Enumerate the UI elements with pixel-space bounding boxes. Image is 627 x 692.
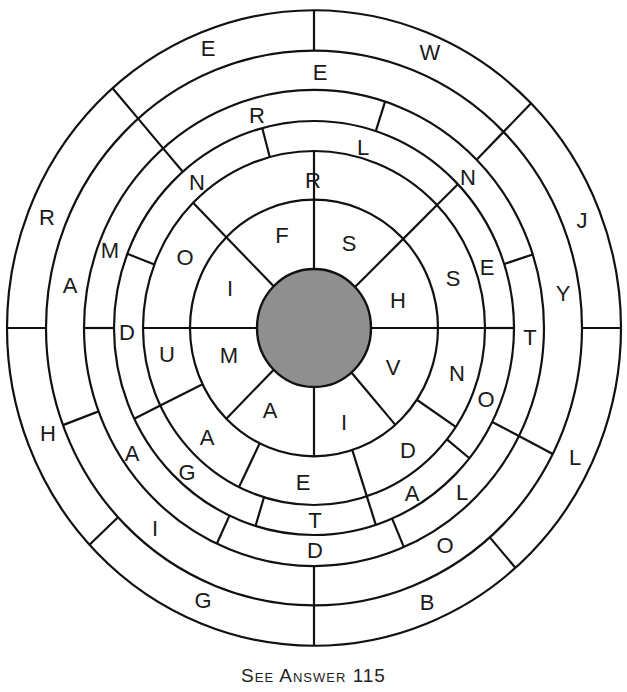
ring-6-letter: G — [194, 588, 211, 613]
ring-6-letter: W — [420, 40, 441, 65]
center-hub-circle — [257, 269, 371, 387]
ring-1-letter: A — [263, 398, 278, 423]
ring-3-letter: L — [357, 135, 369, 160]
ring-4-letter: A — [125, 441, 140, 466]
ring-4-letter: T — [523, 325, 536, 350]
separator-ring-4 — [376, 102, 385, 132]
ring-5-letter: I — [152, 516, 158, 541]
separator-ring-3 — [447, 439, 470, 458]
separator-ring-2 — [417, 400, 456, 427]
separator-ring-5 — [138, 119, 163, 149]
ring-3-letter: D — [119, 320, 135, 345]
separator-ring-4 — [392, 519, 404, 548]
ring-3-letter: T — [308, 508, 321, 533]
separator-ring-6 — [504, 103, 532, 132]
separator-ring-4 — [504, 254, 533, 264]
ring-2-letter: D — [400, 438, 416, 463]
separator-ring-3 — [127, 254, 154, 265]
separator-ring-1 — [355, 239, 403, 287]
ring-3-letter: G — [178, 460, 195, 485]
ring-1-letter: V — [386, 355, 401, 380]
ring-5-letter: O — [436, 533, 453, 558]
ring-2-letter: N — [449, 361, 465, 386]
separator-ring-5 — [477, 132, 504, 160]
word-wheel-puzzle: FSHVIAMIRSNDEAUOLNEOATGDNRTLDAMEYOIAWJLB… — [0, 0, 627, 660]
answer-reference-caption: See Answer 115 — [0, 665, 627, 687]
ring-3-letter: A — [405, 481, 420, 506]
separator-ring-4 — [217, 516, 230, 544]
ring-4-letter: R — [249, 103, 265, 128]
ring-1-letter: F — [275, 223, 288, 248]
separator-ring-4 — [163, 148, 183, 171]
ring-2-letter: U — [159, 342, 175, 367]
ring-5-letter: A — [63, 273, 78, 298]
center-hub — [257, 269, 371, 387]
ring-6-letter: L — [569, 445, 581, 470]
ring-1-letter: M — [220, 343, 238, 368]
ring-1-letter: I — [341, 410, 347, 435]
ring-6-letter: H — [40, 421, 56, 446]
separator-ring-5 — [519, 436, 553, 454]
separator-ring-5 — [63, 411, 99, 425]
ring-2-letter: O — [176, 245, 193, 270]
ring-6-letter: E — [201, 36, 216, 61]
ring-3-letter: E — [480, 255, 495, 280]
ring-4-letter: L — [456, 480, 468, 505]
separator-ring-1 — [351, 373, 395, 425]
separator-ring-2 — [403, 205, 437, 239]
ring-3-letter: N — [460, 165, 476, 190]
ring-2-letter: S — [446, 266, 461, 291]
separator-ring-3 — [134, 406, 160, 419]
separator-ring-2 — [160, 384, 202, 405]
ring-6-letter: J — [577, 208, 588, 233]
separator-ring-3 — [437, 184, 458, 205]
ring-4-letter: M — [101, 238, 119, 263]
ring-6-letter: R — [39, 205, 55, 230]
ring-2-letter: E — [296, 470, 311, 495]
separator-ring-3 — [256, 497, 264, 526]
separator-ring-6 — [89, 517, 118, 545]
ring-5-letter: E — [313, 60, 328, 85]
ring-6-letter: B — [420, 590, 435, 615]
separator-ring-2 — [352, 450, 367, 496]
separator-ring-4 — [492, 422, 519, 436]
ring-3-letter: O — [477, 387, 494, 412]
ring-1-letter: S — [342, 231, 357, 256]
separator-ring-3 — [367, 496, 376, 525]
ring-4-letter: D — [307, 538, 323, 563]
separator-ring-2 — [239, 443, 260, 487]
ring-1-letter: H — [390, 288, 406, 313]
ring-5-letter: Y — [556, 281, 571, 306]
separator-ring-2 — [193, 203, 226, 237]
ring-2-letter: A — [200, 425, 215, 450]
ring-3-letter: N — [189, 170, 205, 195]
separator-ring-6 — [490, 537, 516, 567]
separator-ring-1 — [226, 237, 273, 286]
ring-2-letter: R — [305, 168, 321, 193]
separator-ring-3 — [262, 128, 270, 157]
ring-1-letter: I — [227, 276, 233, 301]
separator-ring-6 — [113, 88, 139, 118]
